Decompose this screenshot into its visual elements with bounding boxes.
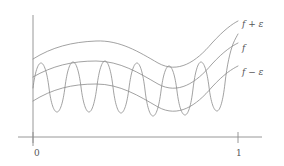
figure-container: 0 1 f + ε f f − ε: [0, 0, 284, 166]
label-f: f: [241, 43, 247, 53]
curve-f-plus-epsilon: [33, 21, 238, 67]
curve-oscillating-approximant: [33, 34, 238, 116]
math-figure: 0 1 f + ε f f − ε: [0, 0, 284, 166]
x-tick-label-zero: 0: [34, 148, 40, 158]
label-f-plus-epsilon: f + ε: [241, 19, 264, 29]
curve-f-minus-epsilon: [33, 66, 238, 111]
x-tick-label-one: 1: [236, 148, 242, 158]
curve-f: [33, 43, 238, 88]
label-f-minus-epsilon: f − ε: [241, 67, 264, 77]
